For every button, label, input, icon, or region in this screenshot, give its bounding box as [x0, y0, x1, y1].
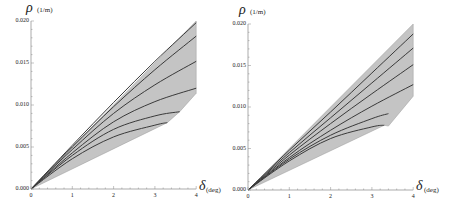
y-tick-label: 0.015 — [1, 59, 29, 65]
y-tick-label: 0.000 — [218, 186, 246, 192]
x-axis-symbol: δ — [416, 178, 423, 194]
y-axis-symbol: ρ — [26, 0, 33, 16]
chart-right: ρ (1/m) δ (deg) 012340.0000.0050.0100.01… — [217, 0, 442, 208]
y-axis-unit: (1/m) — [37, 6, 53, 14]
chart-left: ρ (1/m) δ (deg) 012340.0000.0050.0100.01… — [0, 0, 225, 208]
y-tick-label: 0.005 — [1, 143, 29, 149]
plot-area — [0, 0, 225, 208]
x-tick-label: 0 — [26, 192, 36, 198]
y-tick-label: 0.005 — [218, 145, 246, 151]
y-tick-label: 0.010 — [1, 101, 29, 107]
x-tick-label: 2 — [109, 192, 119, 198]
y-axis-unit: (1/m) — [250, 8, 266, 16]
x-tick-label: 1 — [284, 193, 294, 199]
x-tick-label: 0 — [243, 193, 253, 199]
x-tick-label: 3 — [367, 193, 377, 199]
y-tick-label: 0.020 — [218, 20, 246, 26]
x-axis-unit: (deg) — [424, 186, 439, 194]
x-tick-label: 4 — [191, 192, 201, 198]
y-axis-symbol: ρ — [239, 2, 246, 18]
y-tick-label: 0.020 — [1, 17, 29, 23]
y-tick-label: 0.010 — [218, 103, 246, 109]
y-tick-label: 0.000 — [1, 185, 29, 191]
x-tick-label: 1 — [67, 192, 77, 198]
x-tick-label: 3 — [150, 192, 160, 198]
x-tick-label: 2 — [326, 193, 336, 199]
x-tick-label: 4 — [408, 193, 418, 199]
feasible-region — [248, 24, 413, 190]
y-tick-label: 0.015 — [218, 62, 246, 68]
plot-area — [217, 0, 442, 208]
